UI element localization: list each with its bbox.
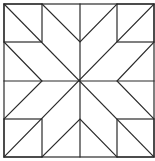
star-lines-group bbox=[4, 4, 154, 157]
quilt-block-svg bbox=[0, 0, 155, 161]
quilt-block-diagram bbox=[0, 0, 155, 161]
